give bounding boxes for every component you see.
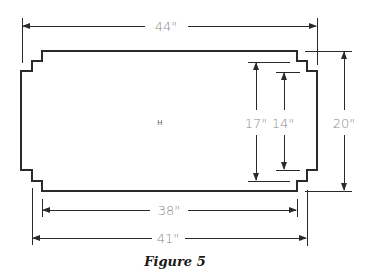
dimension-inner-height: 14" (272, 72, 300, 170)
dimension-label-14: 14" (272, 116, 295, 131)
dimension-label-17: 17" (245, 116, 268, 131)
stepped-panel-diagram: H 44" 20" 17" 14" 38" (0, 0, 374, 274)
center-label: H (157, 119, 162, 127)
dimension-label-20: 20" (333, 116, 356, 131)
dimension-label-41: 41" (157, 231, 180, 246)
dimension-label-44: 44" (155, 19, 178, 34)
figure-caption: Figure 5 (143, 254, 205, 269)
dimension-inner-width: 38" (42, 199, 297, 218)
dimension-label-38: 38" (158, 203, 181, 218)
dimension-overall-width: 44" (22, 18, 317, 65)
